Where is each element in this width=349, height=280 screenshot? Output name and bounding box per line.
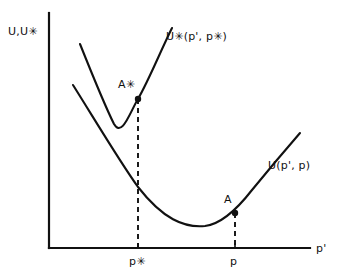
point-a-label: A <box>224 194 232 205</box>
point-astar-label: A✳ <box>118 79 135 90</box>
curve-upper-label: U✳(p', p✳) <box>166 31 227 42</box>
x-axis-label: p' <box>316 243 326 254</box>
tick-label-p-star: p✳ <box>129 256 146 267</box>
utility-diagram: U,U✳ p' U✳(p', p✳) U(p', p) A✳ A p✳ p <box>0 0 349 280</box>
point-marker-astar <box>135 96 141 102</box>
tick-label-p: p <box>230 256 237 267</box>
curve-lower-u <box>73 85 300 226</box>
point-marker-a <box>232 210 238 216</box>
curve-lower-label: U(p', p) <box>268 160 310 171</box>
y-axis-label: U,U✳ <box>8 26 38 37</box>
